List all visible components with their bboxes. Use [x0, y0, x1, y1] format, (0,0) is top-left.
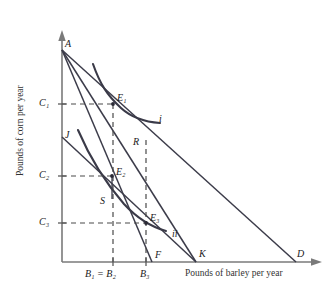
- y-tick-label-c2: C₂: [39, 170, 49, 180]
- point-label-E2: E₂: [116, 167, 126, 177]
- point-dot-E3: [144, 221, 148, 225]
- point-label-A: A: [65, 39, 71, 49]
- point-label-F: F: [155, 250, 161, 260]
- guide-lines: [62, 104, 146, 262]
- x-tick-label-b1b2: B₁ = B₂: [85, 269, 116, 279]
- economics-diagram: [0, 0, 329, 300]
- budget-lines: [62, 50, 296, 262]
- y-axis-title: Pounds of corn per year: [16, 85, 26, 176]
- point-dot-E1: [111, 102, 115, 106]
- budget-line-A-F: [62, 50, 152, 262]
- curve-label-ii: ii: [172, 229, 178, 239]
- budget-line-A-D: [62, 50, 296, 262]
- indifference-curves: [78, 64, 166, 231]
- x-tick-label-b3: B₃: [140, 269, 150, 279]
- curve-label-i: i: [159, 114, 162, 124]
- y-tick-label-c1: C₁: [39, 98, 49, 108]
- point-label-J: J: [65, 130, 69, 140]
- point-label-D: D: [297, 249, 304, 259]
- axis-group: [58, 30, 322, 266]
- point-label-E3: E₃: [150, 213, 160, 223]
- x-axis-title: Pounds of barley per year: [185, 269, 283, 279]
- figure-canvas: A E₁ E₂ E₃ J R S F K D i ii C₁ C₂ C₃ B₁ …: [0, 0, 329, 300]
- point-label-K: K: [199, 249, 206, 259]
- point-dot-E2: [110, 174, 114, 178]
- point-label-R: R: [133, 137, 139, 147]
- point-label-E1: E₁: [117, 93, 127, 103]
- point-label-S: S: [100, 196, 105, 206]
- x-axis-arrowhead: [311, 258, 322, 265]
- y-tick-label-c3: C₃: [39, 217, 49, 227]
- tick-marks: [58, 104, 146, 266]
